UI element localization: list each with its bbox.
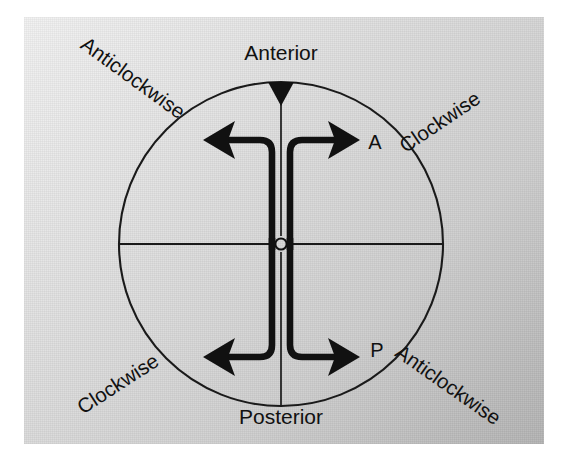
figure-root: Anterior Posterior Anticlockwise Clockwi…	[0, 0, 568, 467]
label-point-p: P	[370, 340, 383, 360]
anterior-triangle-marker	[268, 82, 294, 106]
posterior-right-arrow-stem	[290, 238, 338, 357]
posterior-left-arrow-stem	[224, 238, 272, 357]
centre-point-ring	[275, 238, 286, 249]
label-anterior: Anterior	[244, 42, 318, 63]
label-point-a: A	[368, 132, 381, 152]
label-posterior: Posterior	[239, 406, 323, 427]
